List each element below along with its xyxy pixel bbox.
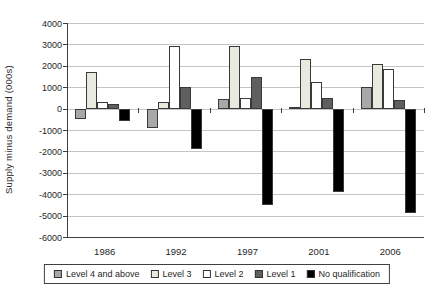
legend-item: Level 4 and above [54,269,140,279]
gridline [67,66,424,67]
legend-swatch-icon [150,270,158,278]
bar-level-1 [108,104,119,108]
y-tick-label: -6000 [28,233,62,243]
bar-level-2 [240,98,251,109]
gridline [67,151,424,152]
bar-level-3 [86,72,97,108]
bar-chart-figure: Supply minus demand (000s) 4000300020001… [0,0,434,297]
legend-item: No qualification [307,269,381,279]
legend-swatch-icon [54,270,62,278]
category-boundary-tick [210,108,211,113]
category-boundary-tick [67,108,68,113]
category-boundary-tick [138,108,139,113]
legend-item: Level 3 [150,269,191,279]
gridline [67,130,424,131]
y-tick-label: 3000 [28,40,62,50]
y-tick-label: -5000 [28,211,62,221]
legend-label: Level 1 [267,269,296,279]
bar-no-qualification [333,109,344,193]
legend-label: Level 2 [214,269,243,279]
category-boundary-tick [424,108,425,113]
category-boundary-tick [353,108,354,113]
legend-swatch-icon [202,270,210,278]
y-axis-line [67,23,68,238]
y-tick-label: 4000 [28,19,62,29]
legend-label: Level 4 and above [66,269,140,279]
x-axis-line [67,237,424,238]
bar-no-qualification [262,109,273,205]
bar-level-4-and-above [75,109,86,120]
x-tick-label: 1986 [80,246,130,257]
bar-no-qualification [119,109,130,122]
legend-item: Level 1 [255,269,296,279]
bar-level-3 [229,46,240,109]
bar-level-1 [322,98,333,109]
legend-item: Level 2 [202,269,243,279]
bar-level-1 [251,77,262,109]
gridline [67,23,424,24]
bar-level-4-and-above [147,109,158,128]
legend-swatch-icon [307,270,315,278]
x-tick-label: 1992 [151,246,201,257]
x-tick-label: 2001 [294,246,344,257]
bar-level-3 [300,59,311,108]
y-tick-label: -2000 [28,147,62,157]
y-tick-label: -4000 [28,190,62,200]
bar-level-4-and-above [289,107,300,109]
legend-swatch-icon [255,270,263,278]
legend: Level 4 and aboveLevel 3Level 2Level 1No… [44,264,390,284]
y-tick-label: -1000 [28,126,62,136]
gridline [67,216,424,217]
y-tick-label: 0 [28,104,62,114]
legend-label: No qualification [319,269,381,279]
bar-level-3 [158,102,169,108]
bar-level-2 [97,102,108,108]
bar-no-qualification [405,109,416,214]
gridline [67,173,424,174]
bar-level-2 [383,69,394,109]
bar-no-qualification [191,109,202,150]
x-tick-label: 1997 [223,246,273,257]
legend-label: Level 3 [162,269,191,279]
plot-area: 40003000200010000-1000-2000-3000-4000-50… [0,0,434,297]
bar-level-1 [180,87,191,108]
x-tick-label: 2006 [365,246,415,257]
y-tick-label: 2000 [28,61,62,71]
bar-level-4-and-above [218,99,229,109]
bar-level-2 [311,82,322,109]
gridline [67,44,424,45]
gridline [67,194,424,195]
bar-level-1 [394,100,405,109]
y-tick-label: -3000 [28,168,62,178]
bar-level-3 [372,64,383,109]
bar-level-2 [169,46,180,109]
bar-level-4-and-above [361,87,372,108]
category-boundary-tick [281,108,282,113]
y-tick-label: 1000 [28,83,62,93]
